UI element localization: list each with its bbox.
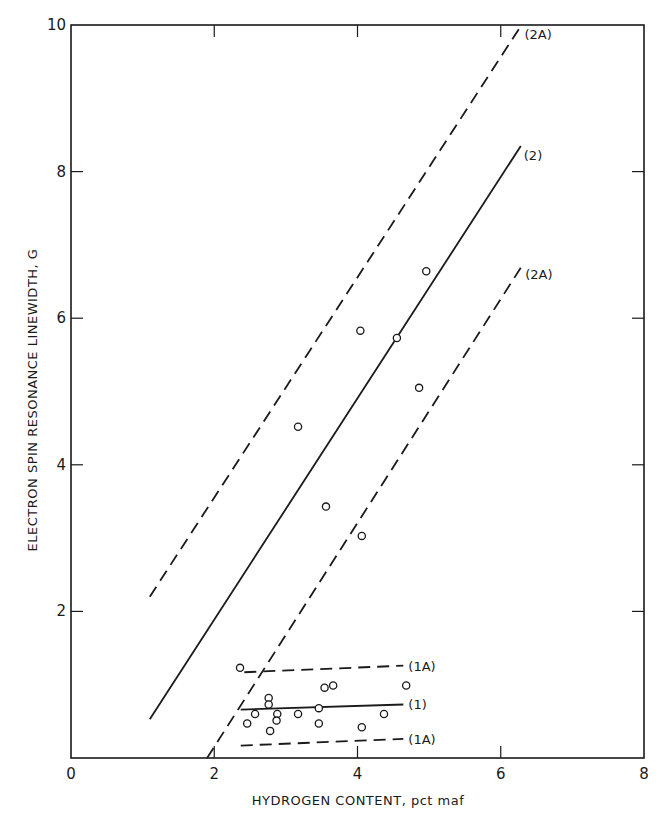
fit-lines [150, 25, 522, 758]
y-tick-label: 4 [56, 456, 66, 474]
y-axis-title: ELECTRON SPIN RESONANCE LINEWIDTH, G [25, 249, 40, 552]
data-point [380, 710, 387, 717]
data-point [315, 705, 322, 712]
line-label: (1A) [408, 659, 435, 674]
data-point [294, 423, 301, 430]
x-tick-label: 2 [209, 765, 219, 783]
chart: 02468246810 (2)(2A)(2A)(1)(1A)(1A) HYDRO… [0, 0, 669, 819]
data-point [251, 710, 258, 717]
line-label: (1A) [408, 732, 435, 747]
line-label: (2) [524, 148, 542, 163]
data-point [244, 720, 251, 727]
y-tick-label: 6 [56, 309, 66, 327]
axis-ticks [71, 25, 644, 758]
fit-line [150, 146, 521, 719]
fit-line [207, 265, 522, 758]
data-point [415, 384, 422, 391]
data-point [322, 503, 329, 510]
data-point [315, 720, 322, 727]
x-tick-label: 8 [639, 765, 649, 783]
y-tick-label: 8 [56, 163, 66, 181]
line-label: (2A) [525, 267, 552, 282]
line-labels: (2)(2A)(2A)(1)(1A)(1A) [408, 27, 552, 747]
plot-frame [71, 25, 644, 758]
line-label: (2A) [525, 27, 552, 42]
data-point [267, 727, 274, 734]
data-point [423, 268, 430, 275]
data-point [265, 701, 272, 708]
data-point [321, 684, 328, 691]
data-point [273, 717, 280, 724]
x-tick-label: 0 [66, 765, 76, 783]
fit-line [244, 666, 403, 673]
data-point [330, 682, 337, 689]
x-tick-label: 6 [496, 765, 506, 783]
data-point [358, 724, 365, 731]
data-point [403, 682, 410, 689]
fit-line [150, 25, 522, 597]
line-label: (1) [408, 697, 426, 712]
x-axis-title: HYDROGEN CONTENT, pct maf [252, 793, 465, 808]
y-tick-label: 10 [47, 16, 66, 34]
fit-line [241, 739, 404, 746]
data-point [294, 710, 301, 717]
data-point [393, 334, 400, 341]
x-tick-label: 4 [353, 765, 363, 783]
data-point [357, 327, 364, 334]
data-points [236, 268, 429, 735]
data-point [358, 532, 365, 539]
y-tick-label: 2 [56, 602, 66, 620]
data-point [236, 664, 243, 671]
